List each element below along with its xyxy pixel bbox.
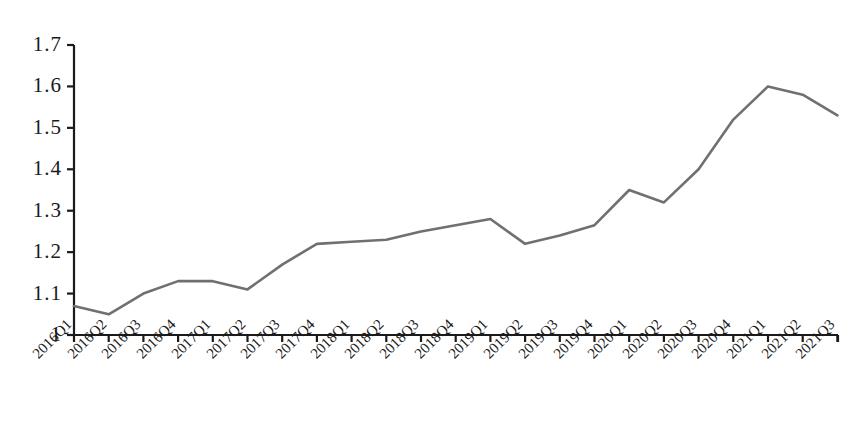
data-series-group [74, 86, 837, 314]
axes [67, 45, 838, 342]
chart-plot-area [0, 0, 866, 435]
data-series-line-1 [74, 86, 837, 314]
line-chart: 11.11.21.31.41.51.61.7 2016Q12016Q22016Q… [0, 0, 866, 435]
